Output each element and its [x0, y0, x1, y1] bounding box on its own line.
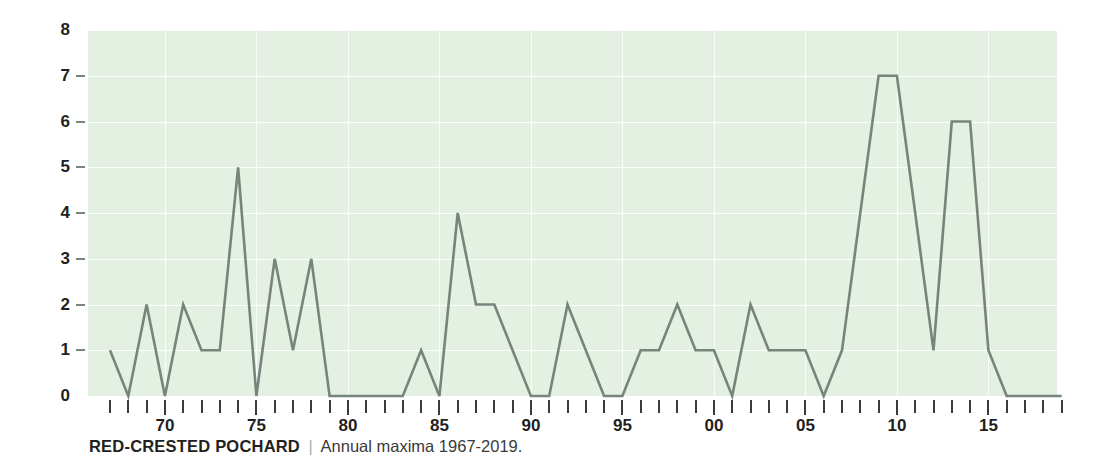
- x-axis-tick-minor: [1024, 400, 1026, 413]
- x-axis-tick-label: 70: [145, 417, 185, 434]
- x-axis-tick-minor: [750, 400, 752, 413]
- x-axis-tick-minor: [640, 400, 642, 413]
- caption-divider: |: [305, 437, 317, 455]
- y-axis-tick: [76, 75, 85, 77]
- x-axis-tick-minor: [127, 400, 129, 413]
- x-axis-tick-label: 90: [511, 417, 551, 434]
- y-axis-tick-label: 2: [48, 296, 70, 313]
- y-axis-tick-label: 6: [48, 113, 70, 130]
- x-axis-tick-minor: [420, 400, 422, 413]
- y-axis-tick-label: 7: [48, 67, 70, 84]
- x-axis-tick-label: 95: [602, 417, 642, 434]
- x-axis-tick-minor: [292, 400, 294, 413]
- x-axis-tick-minor: [548, 400, 550, 413]
- x-axis-tick-minor: [878, 400, 880, 413]
- x-axis-tick-minor: [1006, 400, 1008, 413]
- x-axis-tick-minor: [402, 400, 404, 413]
- caption: RED-CRESTED POCHARD | Annual maxima 1967…: [89, 437, 522, 455]
- x-axis-tick-minor: [1042, 400, 1044, 413]
- y-axis-tick-label: 0: [48, 387, 70, 404]
- x-axis-tick-label: 80: [328, 417, 368, 434]
- x-axis-tick-major: [713, 400, 715, 415]
- x-axis-tick-minor: [603, 400, 605, 413]
- x-axis-tick-minor: [823, 400, 825, 413]
- x-axis-tick-minor: [1061, 400, 1063, 413]
- x-axis-tick-minor: [329, 400, 331, 413]
- x-axis-tick-minor: [933, 400, 935, 413]
- x-axis-tick-minor: [859, 400, 861, 413]
- y-axis-tick-label: 4: [48, 204, 70, 221]
- x-axis-tick-label: 85: [419, 417, 459, 434]
- x-axis-tick-minor: [365, 400, 367, 413]
- x-axis-tick-major: [896, 400, 898, 415]
- data-series-line: [88, 30, 1057, 396]
- y-axis-tick: [76, 349, 85, 351]
- x-axis-tick-major: [530, 400, 532, 415]
- x-axis-tick-minor: [512, 400, 514, 413]
- y-axis-tick-label: 3: [48, 250, 70, 267]
- x-axis-tick-minor: [310, 400, 312, 413]
- x-axis-tick-minor: [475, 400, 477, 413]
- y-axis-tick-label: 5: [48, 158, 70, 175]
- x-axis-tick-minor: [109, 400, 111, 413]
- x-axis-tick-minor: [786, 400, 788, 413]
- y-axis-tick-label: 8: [48, 21, 70, 38]
- x-axis-tick-label: 00: [694, 417, 734, 434]
- y-axis-tick: [76, 121, 85, 123]
- x-axis-tick-minor: [567, 400, 569, 413]
- x-axis-tick-label: 05: [785, 417, 825, 434]
- x-axis-tick-minor: [841, 400, 843, 413]
- x-axis-tick-minor: [731, 400, 733, 413]
- x-axis-tick-minor: [201, 400, 203, 413]
- x-axis-tick-minor: [219, 400, 221, 413]
- species-name: RED-CRESTED POCHARD: [89, 437, 300, 455]
- x-axis-tick-minor: [585, 400, 587, 413]
- x-axis-tick-minor: [969, 400, 971, 413]
- x-axis-tick-major: [621, 400, 623, 415]
- x-axis-tick-minor: [951, 400, 953, 413]
- y-axis-tick: [76, 258, 85, 260]
- x-axis-tick-major: [164, 400, 166, 415]
- x-axis-tick-label: 75: [236, 417, 276, 434]
- x-axis-tick-minor: [493, 400, 495, 413]
- plot-area: [88, 30, 1057, 396]
- chart-figure: 012345678 70758085909500051015 RED-CREST…: [0, 0, 1107, 465]
- x-axis-tick-minor: [457, 400, 459, 413]
- x-axis-tick-minor: [914, 400, 916, 413]
- x-axis-tick-major: [438, 400, 440, 415]
- y-axis-tick: [76, 166, 85, 168]
- y-axis-tick-label: 1: [48, 341, 70, 358]
- x-axis-tick-major: [255, 400, 257, 415]
- x-axis-tick-minor: [274, 400, 276, 413]
- caption-subtitle: Annual maxima 1967-2019.: [321, 437, 523, 455]
- x-axis-tick-minor: [658, 400, 660, 413]
- x-axis-tick-minor: [676, 400, 678, 413]
- y-axis-tick: [76, 212, 85, 214]
- x-axis-tick-major: [804, 400, 806, 415]
- x-axis-tick-label: 15: [968, 417, 1008, 434]
- y-axis-tick: [76, 304, 85, 306]
- x-axis-tick-minor: [146, 400, 148, 413]
- x-axis-tick-label: 10: [877, 417, 917, 434]
- x-axis-tick-major: [347, 400, 349, 415]
- x-axis-tick-minor: [237, 400, 239, 413]
- x-axis-tick-minor: [182, 400, 184, 413]
- x-axis-tick-minor: [768, 400, 770, 413]
- x-axis-tick-major: [987, 400, 989, 415]
- x-axis-tick-minor: [695, 400, 697, 413]
- x-axis-tick-minor: [384, 400, 386, 413]
